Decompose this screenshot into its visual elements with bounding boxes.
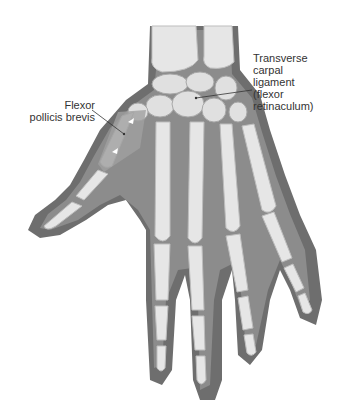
label-line: Transverse [253,52,314,64]
label-line: (flexor [253,88,314,100]
label-line: carpal [253,64,314,76]
label-flexor-pollicis-brevis: Flexor pollicis brevis [27,99,95,123]
leader-dot [123,133,125,135]
label-transverse-carpal-ligament: Transverse carpal ligament (flexor retin… [253,52,314,112]
label-line: pollicis brevis [27,111,95,123]
leader-dot [195,97,197,99]
label-line: retinaculum) [253,100,314,112]
label-line: Flexor [27,99,95,111]
forearm-bones [152,26,234,72]
label-line: ligament [253,76,314,88]
